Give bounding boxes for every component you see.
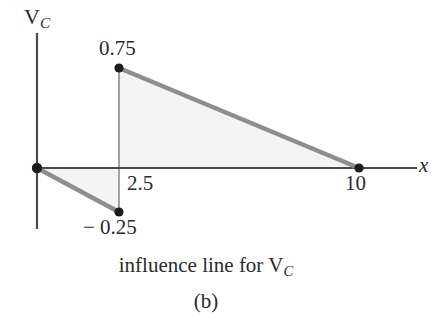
point-origin xyxy=(32,163,42,173)
figure-caption-symbol: V xyxy=(268,253,283,277)
figure-caption-text: influence line for xyxy=(119,253,268,277)
x-axis-label: x xyxy=(419,155,428,176)
figure-caption: influence line for VC xyxy=(0,255,428,279)
ordinate-label-trough: − 0.25 xyxy=(83,217,137,238)
y-axis-label-symbol: V xyxy=(24,4,40,29)
abscissa-label-span-end: 10 xyxy=(345,173,366,194)
influence-line-figure: VC x 0.75 2.5 10 − 0.25 influence line f… xyxy=(0,0,444,324)
figure-caption-subscript: C xyxy=(283,263,293,279)
y-axis-label: VC xyxy=(24,6,50,31)
abscissa-label-hinge: 2.5 xyxy=(127,173,153,194)
y-axis-label-subscript: C xyxy=(40,14,50,31)
ordinate-label-peak: 0.75 xyxy=(99,38,136,59)
subfigure-label: (b) xyxy=(0,291,428,312)
point-peak-075 xyxy=(114,63,123,72)
